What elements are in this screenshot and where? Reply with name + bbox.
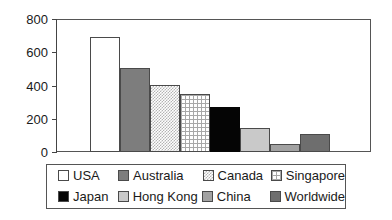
legend-swatch-hong-kong-icon <box>118 191 129 202</box>
legend-swatch-australia-icon <box>118 170 129 181</box>
bar-singapore <box>180 94 210 152</box>
legend-item-australia[interactable]: Australia <box>118 165 203 186</box>
bar-canada <box>150 85 180 152</box>
legend-swatch-worldwide-icon <box>270 191 281 202</box>
legend-label-china: China <box>217 190 251 203</box>
y-tick-label-800: 800 <box>4 13 48 26</box>
bar-hong-kong <box>240 128 270 152</box>
bar-usa <box>90 37 120 152</box>
legend-swatch-japan-icon <box>58 191 69 202</box>
legend-label-worldwide: Worldwide <box>285 190 345 203</box>
legend-item-worldwide[interactable]: Worldwide <box>270 186 345 207</box>
legend-item-canada[interactable]: Canada <box>203 165 271 186</box>
legend-swatch-canada-icon <box>203 170 214 181</box>
bar-worldwide <box>300 134 330 152</box>
y-tick-label-400: 400 <box>4 80 48 93</box>
y-tick-mark-400 <box>52 86 56 87</box>
bar-australia <box>120 68 150 152</box>
legend-item-japan[interactable]: Japan <box>58 186 118 207</box>
legend-label-hong-kong: Hong Kong <box>133 190 198 203</box>
legend-row-2: Japan Hong Kong China Worldwide <box>47 186 345 207</box>
y-tick-mark-0 <box>52 152 56 153</box>
y-tick-label-600: 600 <box>4 46 48 59</box>
y-tick-label-0: 0 <box>4 146 48 159</box>
legend-swatch-singapore-icon <box>271 170 282 181</box>
y-axis-line <box>56 19 57 153</box>
y-tick-label-200: 200 <box>4 113 48 126</box>
bar-chart: 800 600 400 200 0 USA Australia Canada S… <box>0 0 392 220</box>
bar-japan <box>210 107 240 152</box>
legend-item-hong-kong[interactable]: Hong Kong <box>118 186 202 207</box>
legend-label-canada: Canada <box>218 169 264 182</box>
y-tick-mark-200 <box>52 119 56 120</box>
y-tick-mark-600 <box>52 52 56 53</box>
legend-swatch-usa-icon <box>58 170 69 181</box>
legend-label-japan: Japan <box>73 190 108 203</box>
legend-label-australia: Australia <box>133 169 184 182</box>
legend-item-singapore[interactable]: Singapore <box>271 165 345 186</box>
legend-item-china[interactable]: China <box>202 186 270 207</box>
legend-label-usa: USA <box>73 169 100 182</box>
legend-label-singapore: Singapore <box>286 169 345 182</box>
legend-swatch-china-icon <box>202 191 213 202</box>
chart-legend: USA Australia Canada Singapore Japan <box>46 164 346 209</box>
y-tick-mark-800 <box>52 19 56 20</box>
bar-china <box>270 144 300 152</box>
legend-row-1: USA Australia Canada Singapore <box>47 165 345 186</box>
legend-item-usa[interactable]: USA <box>58 165 118 186</box>
